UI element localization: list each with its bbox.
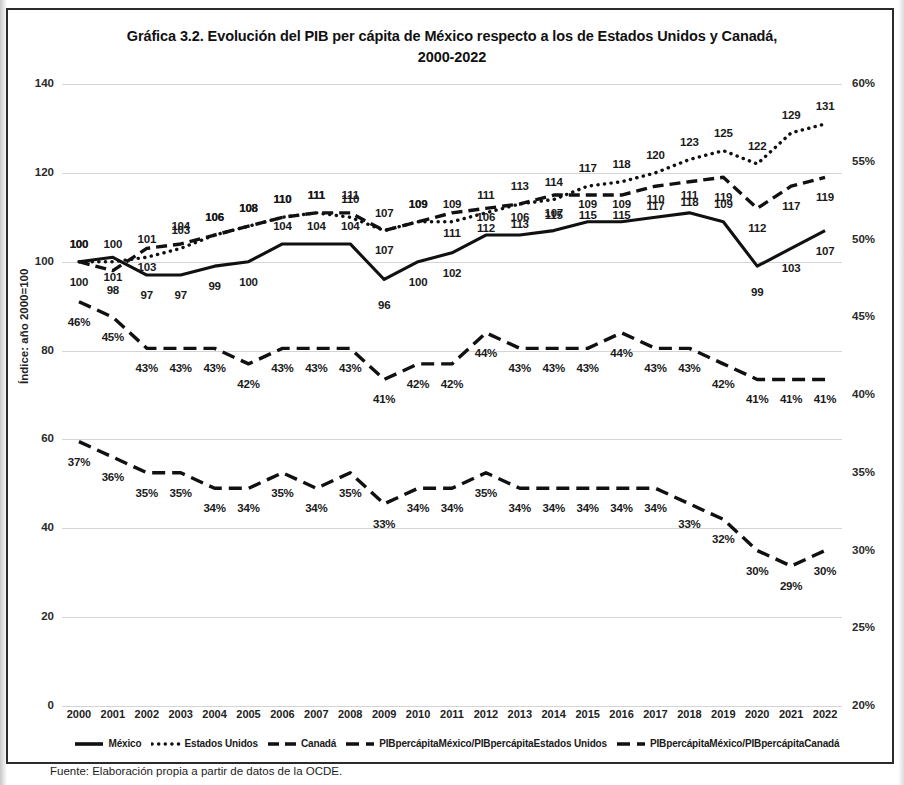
data-point-label: 118 — [613, 158, 631, 170]
data-point-label: 45% — [102, 331, 124, 343]
data-point-label: 110 — [273, 193, 291, 205]
source-note: Fuente: Elaboración propia a partir de d… — [50, 765, 342, 777]
legend-label: Estados Unidos — [185, 738, 258, 749]
data-point-label: 43% — [305, 362, 327, 374]
legend-key-canada-icon — [267, 739, 297, 749]
data-point-label: 100 — [70, 276, 89, 288]
data-point-label: 103 — [137, 261, 156, 273]
legend-label: Canadá — [301, 738, 336, 749]
y-axis-right-tick: 25% — [852, 621, 900, 633]
data-point-label: 43% — [678, 362, 700, 374]
y-axis-left-tick: 100 — [8, 255, 54, 267]
data-point-label: 42% — [712, 378, 734, 390]
y-axis-right-tick: 45% — [852, 310, 900, 322]
y-axis-right-tick: 50% — [852, 233, 900, 245]
data-point-label: 43% — [169, 362, 191, 374]
data-point-label: 34% — [237, 502, 259, 514]
data-point-label: 113 — [511, 180, 529, 192]
data-point-label: 117 — [646, 200, 664, 212]
series-line-2 — [79, 177, 825, 270]
page-left-edge-shadow — [0, 0, 7, 785]
chart-title-line-1: Gráfica 3.2. Evolución del PIB per cápit… — [80, 26, 824, 47]
legend-item[interactable]: México — [74, 738, 141, 749]
legend-label: PIBpercápitaMéxico/PIBpercápitaEstados U… — [379, 738, 607, 749]
data-point-label: 107 — [375, 207, 394, 219]
data-point-label: 34% — [305, 502, 327, 514]
data-point-label: 41% — [814, 393, 836, 405]
data-point-label: 44% — [610, 347, 632, 359]
y-axis-left-tick: 140 — [8, 77, 54, 89]
data-point-label: 33% — [678, 518, 700, 530]
data-point-label: 118 — [680, 196, 698, 208]
data-point-label: 97 — [174, 289, 186, 301]
legend-item[interactable]: Estados Unidos — [151, 738, 258, 749]
data-point-label: 30% — [746, 565, 768, 577]
data-point-label: 41% — [780, 393, 802, 405]
series-canvas — [62, 84, 842, 706]
data-point-label: 43% — [644, 362, 666, 374]
data-point-label: 36% — [102, 471, 124, 483]
data-point-label: 115 — [579, 209, 597, 221]
data-point-label: 100 — [104, 238, 123, 250]
data-point-label: 102 — [443, 267, 462, 279]
legend-item[interactable]: Canadá — [267, 738, 336, 749]
gridline — [62, 706, 842, 707]
legend-item[interactable]: PIBpercápitaMéxico/PIBpercápitaCanadá — [616, 738, 840, 749]
data-point-label: 119 — [714, 191, 732, 203]
data-point-label: 42% — [441, 378, 463, 390]
data-point-label: 113 — [511, 218, 529, 230]
data-point-label: 43% — [339, 362, 361, 374]
data-point-label: 32% — [712, 533, 734, 545]
data-point-label: 120 — [646, 149, 665, 161]
data-point-label: 100 — [239, 276, 258, 288]
data-point-label: 115 — [613, 209, 631, 221]
data-point-label: 33% — [373, 518, 395, 530]
data-point-label: 46% — [68, 316, 90, 328]
data-point-label: 125 — [714, 127, 733, 139]
data-point-label: 43% — [136, 362, 158, 374]
data-point-label: 35% — [475, 487, 497, 499]
data-point-label: 106 — [205, 211, 224, 223]
data-point-label: 44% — [475, 347, 497, 359]
data-point-label: 117 — [579, 162, 597, 174]
data-point-label: 42% — [407, 378, 429, 390]
data-point-label: 107 — [375, 244, 394, 256]
data-point-label: 41% — [373, 393, 395, 405]
legend-item[interactable]: PIBpercápitaMéxico/PIBpercápitaEstados U… — [345, 738, 607, 749]
data-point-label: 111 — [308, 189, 325, 201]
data-point-label: 97 — [141, 289, 153, 301]
legend-label: México — [108, 738, 141, 749]
data-point-label: 119 — [816, 191, 834, 203]
chart-page: Gráfica 3.2. Evolución del PIB per cápit… — [0, 0, 904, 785]
data-point-label: 115 — [545, 209, 563, 221]
chart-legend: MéxicoEstados UnidosCanadáPIBpercápitaMé… — [62, 738, 852, 749]
data-point-label: 34% — [610, 502, 632, 514]
data-point-label: 112 — [477, 222, 495, 234]
data-point-label: 43% — [203, 362, 225, 374]
data-point-label: 35% — [271, 487, 293, 499]
data-point-label: 117 — [782, 200, 800, 212]
data-point-label: 111 — [477, 189, 494, 201]
data-point-label: 101 — [137, 233, 156, 245]
data-point-label: 114 — [545, 176, 563, 188]
data-point-label: 35% — [339, 487, 361, 499]
data-point-label: 108 — [239, 202, 258, 214]
data-point-label: 35% — [136, 487, 158, 499]
data-point-label: 34% — [203, 502, 225, 514]
data-point-label: 34% — [576, 502, 598, 514]
data-point-label: 100 — [70, 238, 89, 250]
data-point-label: 96 — [378, 299, 390, 311]
data-point-label: 109 — [578, 198, 597, 210]
data-point-label: 109 — [612, 198, 631, 210]
data-point-label: 34% — [644, 502, 666, 514]
data-point-label: 34% — [509, 502, 531, 514]
legend-key-estados-unidos-icon — [151, 739, 181, 749]
y-axis-left-tick: 80 — [8, 344, 54, 356]
y-axis-left-tick: 20 — [8, 610, 54, 622]
plot-wrapper: Índice: año 2000=100 Porcentaje 02040608… — [62, 84, 842, 706]
x-axis-labels: 2000200120022003200420052006200720082009… — [62, 708, 842, 728]
data-point-label: 123 — [680, 136, 699, 148]
data-point-label: 109 — [443, 198, 462, 210]
data-point-label: 41% — [746, 393, 768, 405]
legend-key-mexico-icon — [74, 739, 104, 749]
